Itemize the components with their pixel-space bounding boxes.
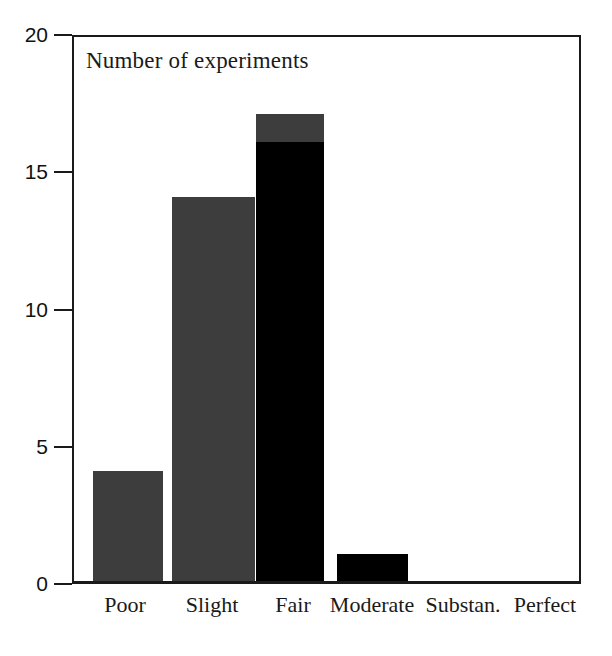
y-axis-tick-label: 15 xyxy=(4,161,48,182)
y-axis-tick xyxy=(54,583,72,585)
bar-segment-gray xyxy=(93,471,163,581)
bar-moderate[interactable] xyxy=(337,554,408,581)
x-axis-label-fair: Fair xyxy=(275,592,310,618)
x-axis-label-perfect: Perfect xyxy=(514,592,576,618)
plot-area xyxy=(72,35,581,584)
y-axis-tick xyxy=(54,171,72,173)
bar-fair[interactable] xyxy=(256,114,324,581)
y-axis-tick xyxy=(54,446,72,448)
y-axis-tick-label: 5 xyxy=(4,436,48,457)
y-axis-tick xyxy=(54,309,72,311)
bar-segment-gray xyxy=(256,114,324,141)
y-axis-tick xyxy=(54,34,72,36)
bar-poor[interactable] xyxy=(93,471,163,581)
y-axis-tick-label: 0 xyxy=(4,573,48,594)
x-axis-label-poor: Poor xyxy=(104,592,146,618)
bar-chart-figure: 20151050 Number of experiments PoorSligh… xyxy=(0,0,612,656)
bar-segment-black xyxy=(256,142,324,581)
bar-segment-black xyxy=(337,554,408,581)
y-axis-tick-label: 20 xyxy=(4,24,48,45)
x-axis-label-slight: Slight xyxy=(186,592,239,618)
x-axis-label-moderate: Moderate xyxy=(330,592,414,618)
chart-title: Number of experiments xyxy=(86,47,309,75)
bar-segment-gray xyxy=(172,197,255,581)
x-axis-label-substan: Substan. xyxy=(425,592,500,618)
y-axis-tick-label: 10 xyxy=(4,299,48,320)
bar-slight[interactable] xyxy=(172,197,255,581)
